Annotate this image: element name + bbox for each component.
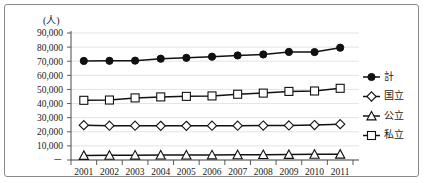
data-point [80, 96, 88, 104]
data-point [208, 92, 216, 100]
data-point [311, 48, 318, 55]
y-axis-tick-label: 50,000 [37, 85, 63, 95]
data-point [285, 48, 292, 55]
data-point [182, 121, 191, 130]
data-point [337, 44, 344, 51]
data-point [259, 89, 267, 97]
data-point [259, 121, 268, 130]
y-axis-tick-label: 80,000 [37, 43, 63, 53]
chart-frame: (人) －10,00020,00030,00040,00050,00060,00… [4, 4, 419, 177]
x-axis-tick-label: 2011 [331, 167, 350, 177]
data-point [183, 54, 190, 61]
legend-marker-計 [368, 73, 375, 80]
data-point [234, 90, 242, 98]
y-axis-tick-label: 30,000 [37, 113, 63, 123]
data-point [157, 93, 165, 101]
data-point [207, 121, 216, 130]
x-axis-tick-label: 2005 [177, 167, 196, 177]
x-axis-tick-label: 2008 [254, 167, 273, 177]
legend-marker-私立 [368, 132, 376, 140]
y-axis-tick-label: 10,000 [37, 141, 63, 151]
data-point [106, 57, 113, 64]
data-point [310, 120, 319, 129]
data-point [131, 57, 138, 64]
legend-label-公立: 公立 [384, 109, 404, 121]
data-point [234, 52, 241, 59]
x-axis-tick-label: 2004 [151, 167, 170, 177]
x-axis-tick-label: 2007 [228, 167, 247, 177]
data-point [285, 87, 293, 95]
y-axis-tick-label: 90,000 [37, 28, 63, 38]
legend-label-国立: 国立 [384, 89, 404, 101]
data-point [336, 120, 345, 129]
x-axis-tick-label: 2002 [100, 167, 119, 177]
y-axis-ticks-group: －10,00020,00030,00040,00050,00060,00070,… [37, 28, 71, 165]
x-axis-tick-label: 2006 [203, 167, 222, 177]
data-point [105, 96, 113, 104]
data-point [182, 92, 190, 100]
data-point [336, 84, 344, 92]
data-point [208, 53, 215, 60]
y-axis-tick-label: － [53, 155, 63, 165]
data-point [80, 57, 87, 64]
data-point [157, 55, 164, 62]
data-point [311, 87, 319, 95]
legend-label-私立: 私立 [384, 128, 404, 140]
line-chart-plot: －10,00020,00030,00040,00050,00060,00070,… [5, 5, 420, 178]
x-axis-ticks-group: 2001200220032004200520062007200820092010… [71, 160, 353, 177]
x-axis-tick-label: 2003 [126, 167, 145, 177]
chart-legend: 計国立公立私立 [363, 70, 404, 141]
data-point [156, 121, 165, 130]
x-axis-tick-label: 2001 [74, 167, 93, 177]
x-axis-tick-label: 2009 [279, 167, 298, 177]
y-axis-tick-label: 40,000 [37, 99, 63, 109]
legend-marker-国立 [367, 92, 376, 101]
y-axis-tick-label: 20,000 [37, 127, 63, 137]
data-point [105, 121, 114, 130]
data-point [79, 121, 88, 130]
data-point [284, 121, 293, 130]
x-axis-tick-label: 2010 [305, 167, 324, 177]
y-axis-tick-label: 60,000 [37, 71, 63, 81]
y-axis-tick-label: 70,000 [37, 57, 63, 67]
data-point [233, 121, 242, 130]
data-point [260, 51, 267, 58]
legend-label-計: 計 [384, 70, 394, 82]
chart-area: (人) －10,00020,00030,00040,00050,00060,00… [5, 5, 420, 178]
data-point [130, 121, 139, 130]
data-point [131, 94, 139, 102]
